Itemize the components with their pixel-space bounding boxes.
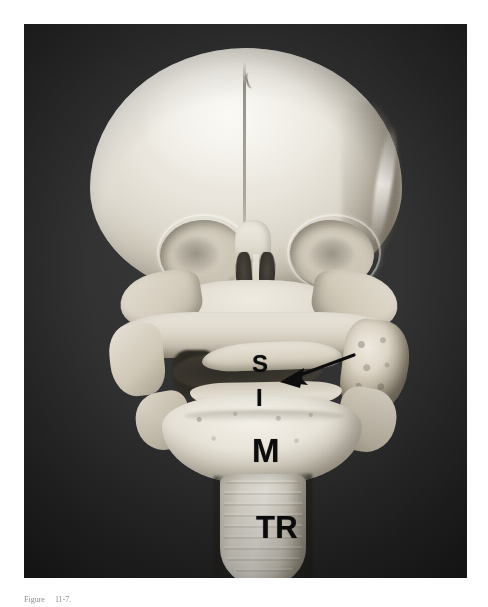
left-orbit-depth <box>174 238 218 272</box>
anatomical-photograph: S I M TR <box>24 24 467 578</box>
crown-highlight <box>144 64 334 184</box>
leader-arrow <box>264 352 356 392</box>
label-trachea: TR <box>256 512 298 543</box>
label-infraglottis: I <box>256 386 263 410</box>
left-temporal-fragment <box>106 321 167 398</box>
figure-number: Figure <box>24 595 45 604</box>
label-supraglottis: S <box>252 352 268 376</box>
label-mandible: M <box>252 434 280 467</box>
figure-caption-text: 11-7. <box>55 595 71 604</box>
figure-caption: Figure11-7. <box>24 594 464 607</box>
right-orbit-depth <box>310 238 354 272</box>
figure-plate: S I M TR Figure11-7. <box>0 0 488 607</box>
